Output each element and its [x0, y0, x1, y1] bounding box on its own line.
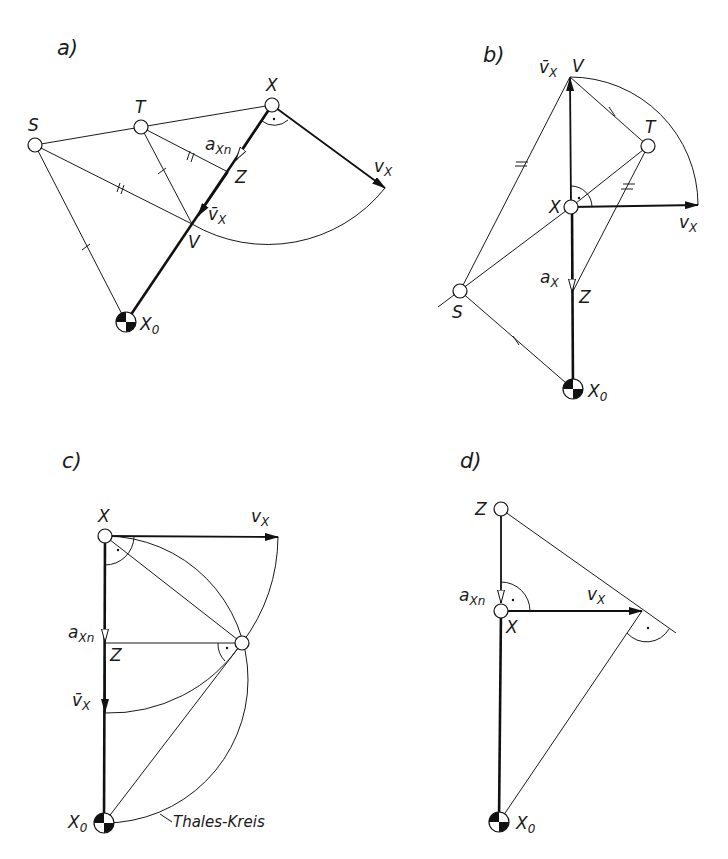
label-vbar: v̄X: [539, 57, 558, 80]
panel-a: a) S: [28, 36, 393, 337]
label-vbar: v̄X: [208, 204, 227, 227]
joint-p: [235, 636, 249, 650]
link-x-p: [105, 536, 242, 643]
fixed-pivot-x0-icon: [489, 812, 509, 832]
link-s-x0: [35, 145, 126, 322]
panel-c-label: c): [62, 449, 82, 473]
vector-vx: [571, 205, 698, 207]
joint-x: [564, 200, 578, 214]
link-x0-p: [104, 643, 242, 823]
rotation-arc-vx: [242, 537, 278, 643]
link-x-t: [571, 146, 648, 207]
vector-vx: [272, 105, 385, 188]
equal-length-ticks: [513, 107, 635, 345]
panel-b: b) V v̄X T X vX aX: [438, 43, 698, 404]
link-z-tangent: [501, 509, 676, 633]
annotation-leader: [160, 814, 172, 822]
right-angle-mark: [262, 120, 288, 125]
vector-vbar: [570, 78, 571, 207]
right-angle-mark-tip: [627, 629, 669, 642]
label-z: Z: [578, 287, 591, 307]
label-x: X: [548, 197, 561, 217]
joint-t: [641, 139, 655, 153]
label-vx: vX: [679, 212, 698, 235]
kinematics-diagram: a) S: [0, 0, 728, 859]
right-angle-mark-p: [218, 643, 225, 661]
link-s-x0: [460, 291, 573, 389]
joint-t: [134, 120, 148, 134]
label-z: Z: [234, 167, 247, 187]
joint-x: [98, 529, 112, 543]
label-x0: X0: [67, 812, 88, 835]
rotation-arc-vbar: [105, 643, 242, 713]
label-x: X: [265, 75, 278, 95]
panel-a-label: a): [57, 36, 78, 60]
thales-circle: [104, 536, 248, 823]
panel-d-label: d): [460, 449, 482, 473]
label-ax: aX: [540, 267, 559, 290]
label-v: V: [572, 56, 585, 76]
label-axn: aXn: [205, 134, 231, 157]
label-vx: vX: [251, 506, 270, 529]
link-v-t: [570, 77, 648, 146]
rotation-arc: [570, 77, 698, 205]
label-z: Z: [474, 499, 487, 519]
joint-z: [494, 502, 508, 516]
link-t-x: [141, 105, 272, 127]
label-v: V: [188, 232, 201, 252]
panel-d: d) Z aXn X vX X0: [459, 449, 676, 836]
label-vbar: v̄X: [72, 690, 91, 713]
vector-axn: [236, 105, 272, 160]
label-s: S: [28, 115, 39, 135]
equal-length-ticks: [82, 151, 194, 250]
fixed-pivot-x0-icon: [563, 379, 583, 399]
label-t: T: [135, 97, 147, 117]
label-t: T: [645, 117, 657, 137]
joint-x: [494, 604, 508, 618]
panel-c: c) X vX aXn Z v̄X X0 Thales-Kreis: [62, 449, 278, 835]
link-s-v: [35, 145, 192, 224]
label-x0: X0: [515, 813, 536, 836]
label-x0: X0: [139, 314, 160, 337]
fixed-pivot-x0-icon: [116, 312, 136, 332]
link-s-v: [460, 77, 570, 291]
label-axn: aXn: [459, 585, 485, 608]
label-x: X: [505, 617, 518, 637]
label-vx: vX: [587, 584, 606, 607]
label-z: Z: [109, 645, 122, 665]
label-s: S: [452, 302, 463, 322]
label-x: X: [97, 506, 110, 526]
joint-s: [453, 284, 467, 298]
fixed-pivot-x0-icon: [94, 813, 114, 833]
label-axn: aXn: [68, 622, 94, 645]
label-vx: vX: [374, 156, 393, 179]
link-x-x0: [499, 611, 501, 822]
link-t-z: [572, 146, 648, 293]
link-s-t: [35, 127, 141, 145]
link-x0-vxtip: [499, 611, 642, 822]
panel-b-label: b): [483, 43, 505, 67]
link-t-v: [141, 127, 192, 224]
vector-vx: [105, 536, 278, 537]
joint-s: [28, 138, 42, 152]
joint-x: [265, 98, 279, 112]
label-x0: X0: [587, 381, 608, 404]
thales-kreis-label: Thales-Kreis: [173, 813, 265, 831]
